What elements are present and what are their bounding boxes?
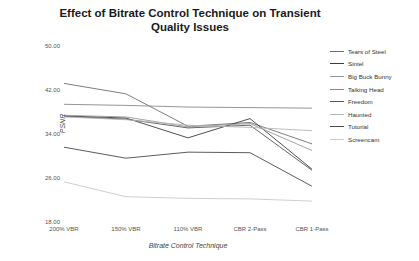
x-tick-label: CBR 1-Pass — [277, 226, 347, 232]
legend-label: Talking Head — [348, 86, 384, 93]
y-tick-label: 18.00 — [16, 219, 60, 225]
legend-item[interactable]: Talking Head — [330, 83, 419, 96]
legend-label: Tutorial — [348, 123, 368, 130]
series-line — [64, 182, 312, 201]
legend-item[interactable]: Freedom — [330, 95, 419, 108]
chart-title: Effect of Bitrate Control Technique on T… — [40, 6, 340, 34]
x-tick-label: 150% VBR — [91, 226, 161, 232]
legend-swatch-icon — [330, 76, 344, 77]
legend-swatch-icon — [330, 89, 344, 90]
y-tick-label: 26.00 — [16, 175, 60, 181]
x-tick-label: CBR 2-Pass — [215, 226, 285, 232]
series-line — [64, 83, 312, 143]
legend-swatch-icon — [330, 63, 344, 64]
legend-label: Freedom — [348, 98, 373, 105]
legend-item[interactable]: Screencam — [330, 133, 419, 146]
legend-label: Haunted — [348, 111, 371, 118]
chart-legend: Tears of SteelSintelBig Buck BunnyTalkin… — [330, 45, 419, 146]
legend-label: Sintel — [348, 60, 363, 67]
y-tick-label: 42.00 — [16, 87, 60, 93]
series-line — [64, 104, 312, 108]
x-tick-label: 200% VBR — [29, 226, 99, 232]
y-tick-label: 34.00 — [16, 131, 60, 137]
legend-swatch-icon — [330, 114, 344, 115]
y-tick-label: 50.00 — [16, 43, 60, 49]
legend-swatch-icon — [330, 101, 344, 102]
legend-swatch-icon — [330, 126, 344, 127]
legend-item[interactable]: Sintel — [330, 58, 419, 71]
series-line — [64, 115, 312, 150]
x-axis-title: Bitrate Control Technique — [64, 242, 312, 249]
legend-label: Tears of Steel — [348, 48, 386, 55]
legend-swatch-icon — [330, 51, 344, 52]
series-lines — [64, 46, 312, 222]
chart-container: Effect of Bitrate Control Technique on T… — [0, 0, 419, 261]
series-line — [64, 116, 312, 170]
legend-swatch-icon — [330, 139, 344, 140]
x-tick-label: 110% VBR — [153, 226, 223, 232]
plot-area: PSNR Bitrate Control Technique 50.0042.0… — [64, 46, 312, 222]
legend-item[interactable]: Tears of Steel — [330, 45, 419, 58]
series-line — [64, 147, 312, 186]
legend-item[interactable]: Big Buck Bunny — [330, 70, 419, 83]
legend-label: Screencam — [348, 136, 379, 143]
legend-item[interactable]: Haunted — [330, 108, 419, 121]
legend-label: Big Buck Bunny — [348, 73, 392, 80]
series-line — [64, 116, 312, 169]
legend-item[interactable]: Tutorial — [330, 121, 419, 134]
series-line — [64, 117, 312, 131]
